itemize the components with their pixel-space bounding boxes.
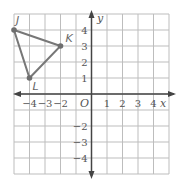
coordinate-plane: −4−3−212344321−2−3−4 JKL x y O — [0, 0, 177, 187]
x-tick-label: 1 — [104, 98, 110, 109]
y-tick-label: 2 — [81, 57, 87, 68]
point-j — [11, 27, 17, 33]
origin-label: O — [80, 97, 89, 110]
y-tick-label: 3 — [81, 41, 87, 52]
point-label-l: L — [33, 80, 39, 93]
point-label-j: J — [14, 14, 19, 27]
y-axis-down-arrow-icon — [89, 171, 95, 179]
x-tick-label: 2 — [119, 98, 125, 109]
axes — [13, 10, 176, 179]
triangle-jkl: JKL — [11, 14, 73, 93]
x-axis-label: x — [160, 97, 167, 110]
y-tick-label: 4 — [81, 25, 87, 36]
x-tick-label: −4 — [22, 98, 37, 109]
triangle-outline — [14, 30, 61, 78]
x-tick-label: −2 — [53, 98, 68, 109]
x-tick-label: 4 — [150, 98, 156, 109]
x-tick-label: 3 — [135, 98, 141, 109]
x-tick-label: −3 — [38, 98, 53, 109]
y-axis-label: y — [96, 12, 104, 25]
y-tick-label: 1 — [81, 73, 87, 84]
point-k — [58, 43, 64, 49]
point-l — [27, 75, 33, 81]
x-axis-right-arrow-icon — [168, 91, 176, 97]
y-tick-label: −3 — [73, 137, 88, 148]
y-tick-label: −2 — [73, 121, 88, 132]
y-tick-label: −4 — [73, 153, 88, 164]
point-label-k: K — [66, 32, 74, 45]
